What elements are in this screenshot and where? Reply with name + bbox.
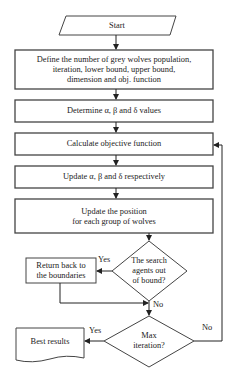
determine-label: Determine α, β and δ values bbox=[15, 100, 213, 122]
bound-line-2: agents out bbox=[132, 266, 165, 276]
update-abd-label: Update α, β and δ respectively bbox=[15, 166, 213, 188]
return-line-2: the boundaries bbox=[36, 271, 85, 281]
yes-label-bound: Yes bbox=[98, 255, 110, 264]
define-line-2: iteration, lower bound, upper bound, bbox=[53, 65, 176, 75]
bound-line-1: The search bbox=[131, 256, 167, 266]
max-line-1: Max bbox=[141, 331, 156, 341]
define-line-1: Define the number of grey wolves populat… bbox=[37, 55, 192, 65]
define-label: Define the number of grey wolves populat… bbox=[15, 51, 213, 89]
define-line-3: dimension and obj. function bbox=[67, 75, 161, 85]
max-iter-label: Max iteration? bbox=[115, 330, 183, 352]
return-label: Return back to the boundaries bbox=[26, 259, 96, 283]
no-label-max: No bbox=[202, 323, 212, 332]
calculate-label: Calculate objective function bbox=[15, 133, 213, 155]
max-line-2: iteration? bbox=[133, 341, 165, 351]
update-pos-line-2: for each group of wolves bbox=[72, 217, 156, 227]
bound-check-label: The search agents out of bound? bbox=[117, 256, 181, 286]
update-pos-line-1: Update the position bbox=[81, 207, 147, 217]
update-pos-label: Update the position for each group of wo… bbox=[15, 200, 213, 233]
return-line-1: Return back to bbox=[36, 261, 85, 271]
start-label: Start bbox=[62, 16, 172, 35]
no-label-bound: No bbox=[153, 300, 163, 309]
bound-line-3: of bound? bbox=[133, 276, 166, 286]
best-results-label: Best results bbox=[16, 331, 84, 353]
yes-label-max: Yes bbox=[89, 326, 101, 335]
